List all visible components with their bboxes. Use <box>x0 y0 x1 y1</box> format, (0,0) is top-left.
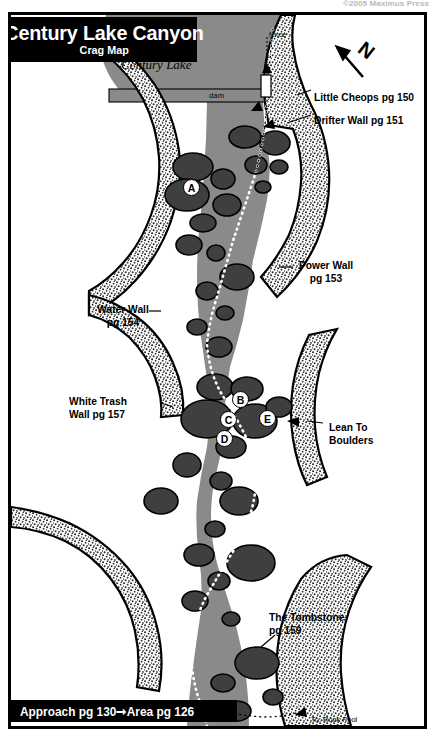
map-title-block: Century Lake Canyon Crag Map <box>11 17 197 62</box>
cliff-band-mid-right <box>291 329 337 485</box>
lean-to-line1: Lean To <box>329 421 367 433</box>
crag-label-lean-to-boulders[interactable]: Lean To Boulders <box>329 421 373 446</box>
map-subtitle: Crag Map <box>79 44 128 57</box>
crag-label-little-cheops[interactable]: Little Cheops pg 150 <box>314 91 414 104</box>
white-trash-line2: Wall pg 157 <box>69 408 125 420</box>
white-trash-line1: White Trash <box>69 395 127 407</box>
crag-map-page: ©2005 Maximus Press <box>0 0 435 739</box>
crag-label-water-wall[interactable]: Water Wall pg 154 <box>90 303 157 328</box>
climb-marker-d[interactable]: D <box>216 430 233 447</box>
rock-pool-note: To: Rock Pool (20-25 min.) <box>311 715 357 729</box>
rock-pool-line1: To: Rock Pool <box>311 715 357 724</box>
climb-marker-b[interactable]: B <box>232 391 249 408</box>
climb-marker-c[interactable]: C <box>220 411 237 428</box>
climb-marker-a[interactable]: A <box>183 179 200 196</box>
crag-label-the-tombstone[interactable]: The Tombstone pg 159 <box>269 611 344 636</box>
cliff-band-lower-right <box>277 555 372 726</box>
approach-area-reference: Approach pg 130➞Area pg 126 <box>20 704 194 719</box>
rock-pool-line2: (20-25 min.) <box>311 724 351 729</box>
crag-label-drifter-wall[interactable]: Drifter Wall pg 151 <box>314 114 403 127</box>
lean-to-line2: Boulders <box>329 434 373 446</box>
map-title: Century Lake Canyon <box>8 22 204 43</box>
fence-post-box <box>261 75 271 97</box>
power-wall-line2: pg 153 <box>310 272 342 284</box>
crag-label-power-wall[interactable]: Power Wall pg 153 <box>295 259 356 284</box>
fence-label: fence <box>269 31 286 38</box>
water-wall-line1: Water Wall <box>97 303 149 315</box>
dam-label: dam <box>209 91 224 100</box>
map-frame: Century Lake dam fence Little Cheops pg … <box>8 12 427 729</box>
dam-structure <box>109 89 285 102</box>
power-wall-line1: Power Wall <box>299 259 353 271</box>
water-wall-line2: pg 154 <box>107 316 139 328</box>
tombstone-line1: The Tombstone <box>269 611 344 623</box>
climb-marker-e[interactable]: E <box>259 410 276 427</box>
map-footer-bar[interactable]: Approach pg 130➞Area pg 126 <box>11 700 237 722</box>
tombstone-line2: pg 159 <box>269 624 301 636</box>
crag-label-white-trash-wall[interactable]: White Trash Wall pg 157 <box>69 395 127 420</box>
cliff-band-lower-left <box>11 507 162 691</box>
copyright-notice: ©2005 Maximus Press <box>343 0 429 8</box>
